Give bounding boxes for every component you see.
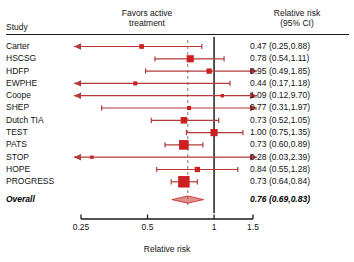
forest-row	[171, 176, 197, 188]
study-label: Carter	[6, 42, 30, 51]
forest-row	[74, 80, 230, 86]
point-estimate-marker	[178, 176, 190, 188]
study-label: HDFP	[6, 67, 29, 76]
estimate-value: 0.78 (0.54,1.11)	[250, 54, 309, 63]
study-label: EWPHE	[6, 79, 37, 88]
study-label: Dutch TIA	[6, 116, 44, 125]
forest-row	[146, 68, 257, 74]
forest-row	[151, 117, 218, 124]
estimate-value: 0.73 (0.64,0.84)	[250, 177, 310, 186]
ci-left-arrow-icon	[74, 93, 81, 99]
x-axis-tick-label: 0.5	[128, 223, 168, 232]
study-label: PATS	[6, 140, 27, 149]
estimate-value: 0.84 (0.55,1.28)	[250, 165, 310, 174]
point-estimate-marker	[133, 81, 137, 85]
estimate-value: 0.28 (0.03,2.39)	[250, 153, 310, 162]
ci-left-arrow-icon	[74, 154, 81, 160]
x-axis-title: Relative risk	[0, 244, 334, 254]
study-label: SHEP	[6, 103, 29, 112]
study-label: HSCSG	[6, 54, 36, 63]
forest-row	[157, 167, 238, 172]
point-estimate-marker	[195, 167, 200, 172]
point-estimate-marker	[90, 155, 93, 158]
study-label: STOP	[6, 153, 29, 162]
estimate-value: 0.73 (0.52,1.05)	[250, 116, 310, 125]
overall-summary-diamond	[172, 196, 204, 203]
estimate-value: 0.73 (0.60,0.89)	[250, 140, 310, 149]
point-estimate-marker	[187, 55, 194, 62]
point-estimate-marker	[187, 106, 191, 110]
forest-row	[165, 140, 203, 150]
estimate-value: 1.09 (0.12,9.70)	[250, 91, 310, 100]
forest-row	[186, 129, 242, 136]
overall-estimate-value: 0.76 (0.69,0.83)	[250, 195, 310, 204]
estimate-value: 0.77 (0.31,1.97)	[250, 103, 310, 112]
forest-row	[74, 43, 202, 49]
ci-left-arrow-icon	[74, 80, 81, 86]
ci-left-arrow-icon	[74, 43, 81, 49]
forest-plot: Study Favors active treatment Relative r…	[0, 0, 354, 262]
study-label: Coope	[6, 91, 31, 100]
overall-label: Overall	[6, 195, 35, 204]
x-axis-tick-label: 1	[194, 223, 234, 232]
forest-row	[102, 105, 257, 111]
study-label: PROGRESS	[6, 177, 54, 186]
estimate-value: 0.44 (0.17,1.18)	[250, 79, 310, 88]
point-estimate-marker	[139, 44, 144, 49]
point-estimate-marker	[181, 117, 188, 124]
x-axis-tick-label: 1.5	[233, 223, 273, 232]
point-estimate-marker	[179, 140, 189, 150]
study-label: TEST	[6, 128, 28, 137]
point-estimate-marker	[221, 94, 224, 97]
estimate-value: 0.47 (0.25,0.88)	[250, 42, 310, 51]
estimate-value: 0.95 (0.49,1.85)	[250, 67, 310, 76]
study-label: HOPE	[6, 165, 30, 174]
forest-row	[74, 154, 257, 160]
estimate-value: 1.00 (0.75,1.35)	[250, 128, 310, 137]
forest-row	[74, 93, 257, 99]
point-estimate-marker	[207, 68, 212, 73]
x-axis-tick-label: 0.25	[61, 223, 101, 232]
point-estimate-marker	[210, 129, 217, 136]
